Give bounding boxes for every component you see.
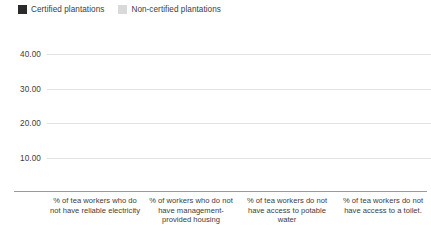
- legend-item-certified: Certified plantations: [18, 5, 104, 14]
- y-axis: 40.00 30.00 20.00 10.00: [0, 20, 47, 192]
- x-category-label: % of workers who do not have management-…: [143, 194, 239, 242]
- legend-swatch-certified-icon: [18, 5, 27, 14]
- legend-label-non-certified: Non-certified plantations: [131, 5, 221, 14]
- x-category-label: % of tea workers do not have access to p…: [239, 194, 335, 242]
- x-axis-line: [14, 191, 427, 192]
- x-category-label: % of tea workers do not have access to a…: [335, 194, 431, 242]
- plot-area: [47, 20, 431, 192]
- chart-legend: Certified plantations Non-certified plan…: [18, 3, 221, 16]
- bar-chart: 40.00 30.00 20.00 10.00: [0, 20, 431, 242]
- legend-item-non-certified: Non-certified plantations: [118, 5, 221, 14]
- legend-swatch-non-certified-icon: [118, 5, 127, 14]
- y-tick-label: 20.00: [20, 119, 41, 128]
- x-category-label: % of tea workers who do not have reliabl…: [47, 194, 143, 242]
- plot-wrapper: 40.00 30.00 20.00 10.00: [0, 20, 431, 192]
- y-tick-label: 10.00: [20, 153, 41, 162]
- y-tick-label: 40.00: [20, 50, 41, 59]
- bar-groups: [47, 20, 431, 192]
- bar-group: [335, 20, 431, 192]
- bar-group: [143, 20, 239, 192]
- legend-label-certified: Certified plantations: [31, 5, 104, 14]
- x-axis: % of tea workers who do not have reliabl…: [47, 194, 431, 242]
- bar-group: [47, 20, 143, 192]
- y-tick-label: 30.00: [20, 84, 41, 93]
- bar-group: [239, 20, 335, 192]
